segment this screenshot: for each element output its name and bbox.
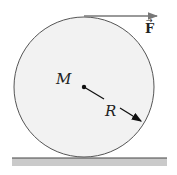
radius-label: R [104,102,116,120]
vector-arrow-mark: → [146,16,153,25]
ground-surface [12,158,167,166]
rolling-disk-diagram: M R F → [0,0,177,175]
mass-label: M [55,70,72,88]
diagram-canvas: M R F → [0,0,177,175]
